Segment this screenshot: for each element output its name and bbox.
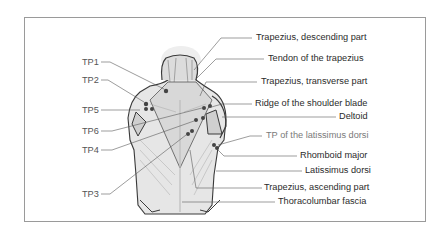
- label-latissimus-dorsi: Latissimus dorsi: [305, 165, 371, 176]
- label-tp-latissimus-dorsi: TP of the latissimus dorsi: [266, 130, 368, 141]
- tp3-dot-a: [186, 132, 190, 136]
- back-anatomy-figure: [0, 0, 436, 238]
- label-trapezius-descending: Trapezius, descending part: [256, 32, 366, 43]
- tp4-dot-a: [194, 118, 198, 122]
- tp4-dot-b: [201, 116, 205, 120]
- label-rhomboid-major: Rhomboid major: [300, 150, 367, 161]
- label-trapezius-ascending: Trapezius, ascending part: [264, 182, 369, 193]
- label-thoracolumbar-fascia: Thoracolumbar fascia: [278, 196, 366, 207]
- label-ridge-shoulder-blade: Ridge of the shoulder blade: [255, 98, 367, 109]
- label-deltoid: Deltoid: [339, 111, 368, 122]
- tp1-dot: [164, 89, 168, 93]
- tp5-dot-b: [150, 107, 154, 111]
- tp2-dot: [144, 102, 148, 106]
- tp6-label: TP6: [82, 126, 99, 137]
- tp6-dot-a: [202, 106, 206, 110]
- label-tendon-trapezius: Tendon of the trapezius: [268, 53, 364, 64]
- tp4-label: TP4: [82, 145, 99, 156]
- label-trapezius-transverse: Trapezius, transverse part: [261, 76, 367, 87]
- tp-latissimus-dot-b: [215, 146, 219, 150]
- tp-latissimus-dot-a: [212, 143, 216, 147]
- tp1-label: TP1: [82, 57, 99, 68]
- tp3-label: TP3: [82, 189, 99, 200]
- tp3-dot-b: [190, 129, 194, 133]
- tp2-label: TP2: [82, 75, 99, 86]
- tp5-dot-a: [144, 107, 148, 111]
- tp5-label: TP5: [82, 105, 99, 116]
